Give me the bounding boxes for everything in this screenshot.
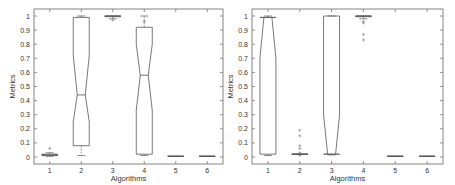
x-axis-label: Algorithms	[330, 174, 366, 183]
y-axis-label: Metrics	[228, 74, 235, 98]
plot-frame	[34, 9, 223, 164]
y-tick-label: 0	[26, 154, 30, 161]
y-tick-label: 1	[244, 13, 248, 20]
boxplot-right-svg: 00.10.20.30.40.50.60.70.80.91123456Algor…	[228, 0, 455, 185]
y-tick-label: 0.1	[238, 139, 248, 146]
x-tick-label: 6	[425, 167, 429, 174]
y-tick-label: 0.7	[20, 55, 30, 62]
boxplot-left-svg: 00.10.20.30.40.50.60.70.80.91123456Algor…	[0, 0, 228, 185]
x-axis-label: Algorithms	[111, 174, 147, 183]
boxplot-left: 00.10.20.30.40.50.60.70.80.91123456Algor…	[0, 0, 228, 185]
y-tick-label: 0.8	[238, 41, 248, 48]
plot-frame	[252, 9, 443, 164]
y-tick-label: 0.2	[20, 125, 30, 132]
y-axis-label: Metrics	[8, 74, 17, 98]
y-tick-label: 0.6	[20, 69, 30, 76]
y-tick-label: 0.6	[238, 69, 248, 76]
y-tick-label: 0.3	[238, 111, 248, 118]
x-tick-label: 2	[79, 167, 83, 174]
y-tick-label: 0.9	[20, 27, 30, 34]
box	[73, 17, 89, 145]
y-tick-label: 0.1	[20, 139, 30, 146]
y-tick-label: 0.4	[20, 97, 30, 104]
x-tick-label: 4	[361, 167, 365, 174]
x-tick-label: 4	[142, 167, 146, 174]
y-tick-label: 1	[26, 13, 30, 20]
x-tick-label: 6	[205, 167, 209, 174]
y-tick-label: 0.5	[20, 83, 30, 90]
y-tick-label: 0.4	[238, 97, 248, 104]
x-tick-label: 1	[266, 167, 270, 174]
box	[324, 16, 340, 154]
box	[136, 27, 152, 154]
x-tick-label: 3	[111, 167, 115, 174]
y-tick-label: 0.7	[238, 55, 248, 62]
x-tick-label: 1	[48, 167, 52, 174]
y-tick-label: 0.2	[238, 125, 248, 132]
y-tick-label: 0	[244, 154, 248, 161]
box	[260, 17, 276, 154]
y-tick-label: 0.8	[20, 41, 30, 48]
x-tick-label: 5	[174, 167, 178, 174]
x-tick-label: 2	[298, 167, 302, 174]
y-tick-label: 0.3	[20, 111, 30, 118]
y-tick-label: 0.9	[238, 27, 248, 34]
y-tick-label: 0.5	[238, 83, 248, 90]
x-tick-label: 3	[330, 167, 334, 174]
x-tick-label: 5	[393, 167, 397, 174]
boxplot-right: 00.10.20.30.40.50.60.70.80.91123456Algor…	[228, 0, 455, 185]
